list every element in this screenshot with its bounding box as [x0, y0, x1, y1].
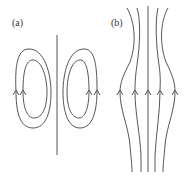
right-outer-loop [63, 49, 97, 128]
left-outer-loop [16, 49, 51, 128]
panel-b [117, 6, 178, 172]
right-inner-loop [67, 60, 89, 118]
diagram-canvas [0, 0, 187, 178]
panel-a [13, 35, 100, 155]
field-line-outer-right [162, 8, 175, 172]
left-inner-loop [23, 60, 47, 118]
field-line-inner-left [135, 8, 141, 172]
field-line-figure: (a) (b) [0, 0, 187, 178]
field-line-outer-left [120, 8, 134, 172]
